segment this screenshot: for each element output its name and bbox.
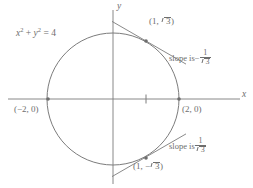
lower-slope-annotation: slope is 1 3 (169, 137, 206, 154)
upper-slope-annotation: slope is− 1 3 (169, 49, 211, 66)
equation-exp-x: 2 (20, 26, 23, 33)
upper-tangent-point-label: (1, 3) (149, 17, 174, 26)
equation-equals: = (43, 28, 48, 38)
circle-equation: x2 + y2 = 4 (16, 27, 56, 39)
equation-rhs: 4 (51, 28, 56, 38)
upper-tangent-point-dot (144, 39, 148, 43)
upper-point-suffix: ) (171, 16, 174, 26)
x-axis-label: x (242, 90, 246, 100)
upper-slope-numerator: 1 (200, 49, 211, 56)
lower-slope-fraction: 1 3 (195, 137, 206, 154)
lower-point-radicand: 3 (155, 161, 160, 171)
upper-slope-text: slope is (169, 53, 195, 63)
lower-point-prefix: (1, − (133, 161, 150, 171)
lower-tangent-point-dot (144, 156, 148, 160)
upper-slope-denominator: 3 (200, 58, 211, 66)
sqrt-icon: 3 (161, 17, 171, 26)
lower-slope-radicand: 3 (200, 145, 205, 154)
lower-point-suffix: ) (160, 161, 163, 171)
equation-plus: + (26, 28, 31, 38)
sqrt-icon: 3 (201, 58, 210, 66)
y-axis-label: y (117, 2, 121, 12)
upper-point-prefix: (1, (149, 16, 161, 26)
left-intercept-label: (−2, 0) (14, 105, 39, 114)
sqrt-icon: 3 (150, 162, 160, 171)
upper-point-radicand: 3 (166, 16, 171, 26)
sqrt-icon: 3 (196, 146, 205, 154)
right-intercept-dot (177, 97, 181, 101)
lower-slope-denominator: 3 (195, 146, 206, 154)
right-intercept-label: (2, 0) (182, 105, 202, 114)
circle-tangent-figure: y x x2 + y2 = 4 (−2, 0) (2, 0) (1, 3) (1… (0, 0, 253, 188)
lower-slope-numerator: 1 (195, 137, 206, 144)
lower-slope-text: slope is (169, 141, 195, 151)
lower-tangent-point-label: (1, −3) (133, 162, 163, 171)
upper-slope-fraction: 1 3 (200, 49, 211, 66)
equation-exp-y: 2 (38, 26, 41, 33)
left-intercept-dot (46, 97, 50, 101)
upper-slope-radicand: 3 (205, 57, 210, 66)
